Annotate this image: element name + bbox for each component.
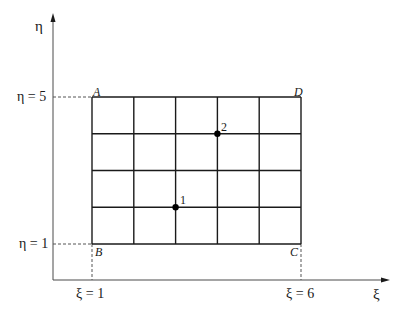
- grid-point-2: [214, 131, 220, 137]
- xi-axis-label: ξ: [373, 287, 380, 302]
- computational-grid: [92, 97, 301, 244]
- eta-axis-label: η: [35, 19, 43, 34]
- eta-min-label: η = 1: [19, 237, 48, 251]
- grid-point-1: [172, 204, 178, 210]
- point-label-1: 1: [180, 194, 186, 206]
- grid-diagram: [0, 0, 403, 312]
- xi-min-label: ξ = 1: [76, 287, 104, 301]
- xi-axis-arrow-icon: [381, 278, 390, 283]
- corner-label-c: C: [290, 246, 298, 258]
- corner-label-a: A: [93, 86, 100, 98]
- point-label-2: 2: [221, 121, 227, 133]
- eta-max-label: η = 5: [17, 90, 46, 104]
- corner-label-d: D: [294, 86, 303, 98]
- guide-lines: [53, 97, 301, 280]
- eta-axis-arrow-icon: [51, 13, 56, 22]
- xi-max-label: ξ = 6: [286, 287, 314, 301]
- axes: [51, 13, 391, 283]
- corner-label-b: B: [95, 246, 102, 258]
